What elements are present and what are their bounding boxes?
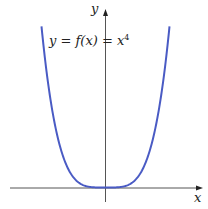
- y-axis-arrow-icon: [103, 9, 108, 16]
- plot-area: [0, 0, 208, 209]
- y-axis-label: y: [91, 1, 98, 16]
- x-axis-label: x: [194, 190, 201, 205]
- function-label-exponent: 4: [124, 33, 129, 42]
- function-label: y = f(x) = x4: [49, 33, 129, 48]
- function-label-lhs: y = f(x) =: [49, 33, 117, 48]
